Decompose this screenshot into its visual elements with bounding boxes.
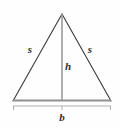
label-height: h <box>65 61 71 72</box>
triangle-side-right <box>62 14 111 101</box>
label-base: b <box>59 112 65 123</box>
label-side-left: s <box>28 44 32 55</box>
triangle-figure: s s h b <box>0 0 120 127</box>
triangle-diagram-svg <box>0 0 120 127</box>
label-side-right: s <box>88 44 92 55</box>
triangle-side-left <box>13 14 62 101</box>
